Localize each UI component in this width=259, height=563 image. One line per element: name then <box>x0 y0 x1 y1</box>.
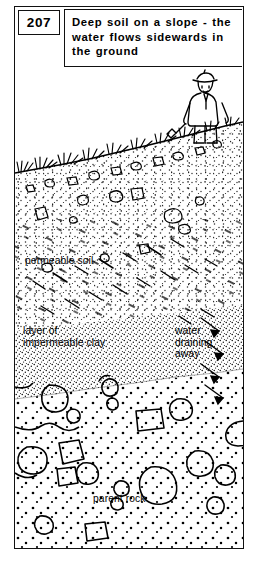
label-impermeable-clay: layer of impermeable clay <box>23 325 105 348</box>
figure-title: Deep soil on a slope - the water flows s… <box>72 15 238 59</box>
label-parent-rock: parent rock <box>93 493 146 505</box>
figure-card: 207 Deep soil on a slope - the water flo… <box>14 6 244 549</box>
soil-profile-drawing <box>15 69 243 548</box>
label-water-draining: water draining away <box>175 325 212 360</box>
figure-number: 207 <box>27 16 51 30</box>
figure-number-box: 207 <box>18 10 60 35</box>
soil-profile-illustration: permeable soil layer of impermeable clay… <box>15 69 243 548</box>
figure-title-box: Deep soil on a slope - the water flows s… <box>64 9 242 67</box>
figure-header: 207 Deep soil on a slope - the water flo… <box>15 7 243 69</box>
label-permeable-soil: permeable soil <box>25 255 93 267</box>
